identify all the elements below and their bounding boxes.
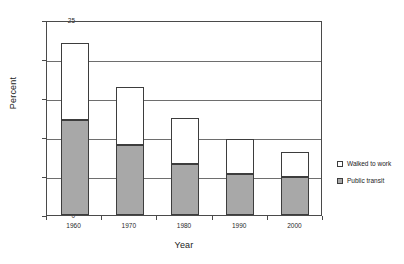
bar-segment-walked-to-work[interactable] [61, 43, 89, 120]
x-axis-tick-mark [322, 216, 323, 220]
x-axis-tick-mark [212, 216, 213, 220]
x-axis-title: Year [0, 240, 368, 250]
x-axis-tick-label: 1970 [109, 222, 149, 229]
y-axis-title: Percent [8, 58, 18, 128]
x-axis-tick-mark [46, 216, 47, 220]
bar-segment-walked-to-work[interactable] [226, 139, 254, 174]
bar-segment-walked-to-work[interactable] [171, 118, 199, 164]
x-axis-tick-mark [156, 216, 157, 220]
x-axis-tick-label: 1980 [164, 222, 204, 229]
legend-item[interactable]: Walked to work [337, 160, 403, 168]
legend-item[interactable]: Public transit [337, 177, 403, 185]
bar-segment-walked-to-work[interactable] [281, 152, 309, 177]
x-axis-tick-label: 1990 [219, 222, 259, 229]
x-axis-tick-mark [101, 216, 102, 220]
bar-segment-public-transit[interactable] [171, 164, 199, 215]
bar-segment-public-transit[interactable] [281, 177, 309, 215]
bar-segment-public-transit[interactable] [116, 145, 144, 215]
bar-segment-public-transit[interactable] [61, 120, 89, 215]
chart-legend: Walked to workPublic transit [337, 160, 403, 194]
plot-area [46, 21, 322, 216]
legend-item-label: Public transit [347, 177, 384, 185]
bar-segment-walked-to-work[interactable] [116, 87, 144, 145]
legend-swatch-icon [337, 178, 343, 184]
legend-item-label: Walked to work [347, 160, 391, 168]
x-axis-tick-mark [267, 216, 268, 220]
legend-swatch-icon [337, 161, 343, 167]
stacked-bar-chart: Percent 0510152025 19601970198019902000 … [0, 0, 404, 264]
bar-segment-public-transit[interactable] [226, 174, 254, 215]
x-axis-tick-label: 2000 [274, 222, 314, 229]
x-axis-tick-label: 1960 [54, 222, 94, 229]
